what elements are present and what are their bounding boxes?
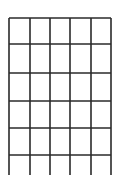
- grid-lines: [9, 18, 111, 175]
- grid-diagram: [0, 0, 120, 188]
